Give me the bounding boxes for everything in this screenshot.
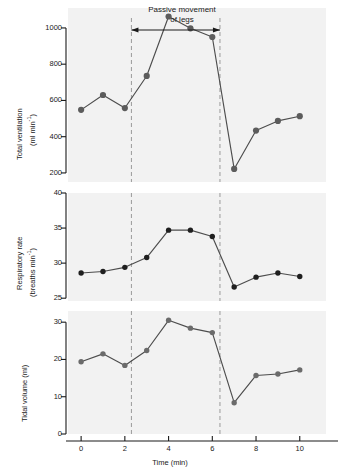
x-axis-title: Time (min) xyxy=(152,459,188,468)
panel-2-data-point xyxy=(210,234,215,239)
annotation-line-2: of legs xyxy=(170,15,194,24)
annotation-arrowhead-right xyxy=(213,27,220,32)
panel-3-data-point xyxy=(188,325,193,330)
x-tick-label: 6 xyxy=(200,445,224,453)
annotation-line-1: Passive movement xyxy=(148,5,216,14)
panel-2-data-point xyxy=(78,270,83,275)
panel-2-data-point xyxy=(122,265,127,270)
panel-3-data-point xyxy=(166,318,171,323)
panel-1-data-point xyxy=(253,127,259,133)
x-tick-label: 4 xyxy=(157,445,181,453)
panel-2-y-tick-label: 40 xyxy=(28,189,62,197)
panel-3-data-point xyxy=(210,330,215,335)
panel-1-data-point xyxy=(231,166,237,172)
panel-3-y-tick-label: 0 xyxy=(28,430,62,438)
panel-2-data-point xyxy=(166,227,171,232)
panel-2-y-units-close: ) xyxy=(28,248,37,251)
panel-1-data-point xyxy=(122,105,128,111)
panel-3-data-point xyxy=(78,359,83,364)
panel-2-y-axis-title: Respiratory rate xyxy=(16,237,25,290)
x-axis-title-text: Time (min) xyxy=(152,458,188,467)
panel-2-data-point xyxy=(144,255,149,260)
panel-1-y-units-close: ) xyxy=(28,114,37,117)
passive-movement-annotation: Passive movement of legs xyxy=(133,5,231,24)
panel-3-y-tick-label: 10 xyxy=(28,393,62,401)
panel-3-data-point xyxy=(144,348,149,353)
panel-2-y-units-exp: -1 xyxy=(26,250,32,255)
panel-2-data-line xyxy=(81,230,300,287)
panel-2-data-point xyxy=(253,274,258,279)
panel-1-data-point xyxy=(209,34,215,40)
x-tick-label: 2 xyxy=(113,445,137,453)
panel-1-y-tick-label: 800 xyxy=(28,60,62,68)
figure-root: Total ventilation (ml min-1) Respiratory… xyxy=(0,0,341,476)
panel-3-data-point xyxy=(100,351,105,356)
panel-1-y-tick-label: 600 xyxy=(28,96,62,104)
panel-3-data-point xyxy=(122,363,127,368)
panel-2-y-tick-label: 30 xyxy=(28,259,62,267)
panel-1-y-axis-title: Total ventilation xyxy=(16,108,25,160)
panel-1-data-line xyxy=(81,17,300,169)
panel-1-y-units-exp: -1 xyxy=(26,117,32,122)
panel-2-y-axis-title-text: Respiratory rate xyxy=(15,237,24,290)
panel-1-data-point xyxy=(144,73,150,79)
panel-1-y-axis-title-text: Total ventilation xyxy=(15,108,24,160)
panel-3-data-point xyxy=(253,373,258,378)
panel-1-data-point xyxy=(100,92,106,98)
panel-3-y-tick-label: 20 xyxy=(28,355,62,363)
panel-2-y-axis-units: (breaths min-1) xyxy=(26,248,37,297)
panel-3-data-point xyxy=(231,400,236,405)
panel-1-y-tick-label: 1000 xyxy=(28,24,62,32)
panel-3-data-point xyxy=(275,371,280,376)
panel-2-data-point xyxy=(297,274,302,279)
annotation-arrowhead-left xyxy=(131,27,138,32)
panel-1-y-axis-units: (ml min-1) xyxy=(26,114,37,146)
panel-2-y-tick-label: 35 xyxy=(28,224,62,232)
panel-1-y-tick-label: 200 xyxy=(28,169,62,177)
panel-2-data-point xyxy=(100,269,105,274)
x-tick-label: 0 xyxy=(69,445,93,453)
panel-2-data-point xyxy=(275,270,280,275)
panel-2-y-tick-label: 25 xyxy=(28,294,62,302)
panel-2-data-point xyxy=(231,284,236,289)
panel-2-data-point xyxy=(188,227,193,232)
x-tick-label: 8 xyxy=(244,445,268,453)
panel-3-data-line xyxy=(81,320,300,402)
panel-1-data-point xyxy=(275,118,281,124)
panel-3-y-tick-label: 30 xyxy=(28,318,62,326)
panel-1-data-point xyxy=(297,113,303,119)
figure-vector-layer xyxy=(0,0,341,476)
x-tick-label: 10 xyxy=(288,445,312,453)
panel-3-data-point xyxy=(297,367,302,372)
panel-1-y-tick-label: 400 xyxy=(28,133,62,141)
panel-1-data-point xyxy=(78,107,84,113)
